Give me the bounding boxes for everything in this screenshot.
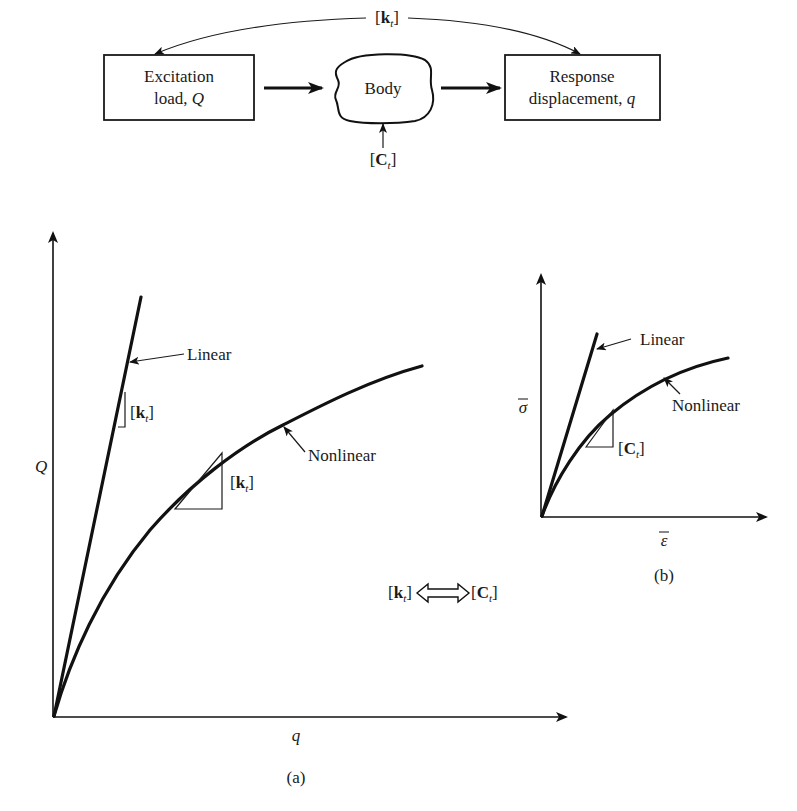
a-nonlinear-slope-triangle (175, 453, 222, 509)
equiv-kt-label: [kt] (388, 583, 412, 604)
a-linear-pointer (130, 354, 184, 362)
a-linear-line (54, 297, 141, 716)
a-linear-label: Linear (187, 345, 232, 364)
svg-text:ε: ε (661, 531, 668, 550)
response-line1: Response (549, 67, 614, 86)
b-linear-line (542, 334, 597, 516)
figure-b: σ ε (b) Linear Nonlinear [Ct] (518, 275, 766, 585)
a-nonlinear-pointer (284, 427, 305, 452)
kt-to-excitation-arrow (155, 18, 366, 54)
response-line2: displacement, q (529, 89, 636, 108)
b-caption: (b) (654, 566, 674, 585)
a-caption: (a) (287, 768, 306, 787)
a-nonlinear-slope-label: [kt] (230, 473, 254, 494)
a-nonlinear-label: Nonlinear (308, 446, 376, 465)
kt-to-response-arrow (408, 18, 580, 54)
b-nonlinear-label: Nonlinear (672, 396, 740, 415)
b-y-label: σ (518, 398, 528, 417)
b-nonlinear-curve (542, 358, 728, 516)
b-nonlinear-pointer (664, 378, 680, 394)
excitation-line2: load, Q (154, 89, 204, 108)
a-x-label: q (292, 726, 301, 745)
a-y-label: Q (35, 457, 47, 476)
b-slope-label: [Ct] (618, 439, 645, 460)
double-arrow-icon (417, 584, 469, 602)
b-linear-pointer (597, 339, 631, 349)
b-linear-label: Linear (640, 330, 685, 349)
excitation-load-box (104, 55, 254, 120)
a-nonlinear-curve (54, 366, 422, 716)
b-x-label: ε (659, 531, 669, 550)
body-label: Body (365, 79, 402, 98)
excitation-line1: Excitation (144, 67, 214, 86)
kt-ct-equivalence: [kt] [Ct] (388, 583, 498, 604)
diagram-canvas: [kt] Excitation load, Q Body Response di… (0, 0, 797, 811)
svg-text:σ: σ (519, 398, 528, 417)
a-linear-slope-label: [kt] (130, 403, 154, 424)
figure-a: Q q (a) Linear [kt] Nonlinear [kt] [kt] (35, 233, 566, 787)
equiv-ct-label: [Ct] (471, 583, 498, 604)
flow-diagram: [kt] Excitation load, Q Body Response di… (104, 8, 660, 171)
response-displacement-box (505, 55, 660, 120)
flow-ct-label: [Ct] (370, 150, 397, 171)
flow-kt-label: [kt] (375, 8, 399, 29)
b-slope-triangle (586, 410, 613, 447)
